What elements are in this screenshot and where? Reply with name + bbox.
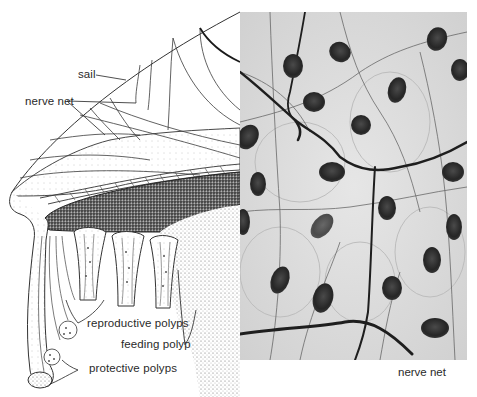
nerve-net-photomicrograph <box>240 12 467 360</box>
figure: sail nerve net reproductive polyps feedi… <box>0 0 477 397</box>
label-nerve-net-drawing: nerve net <box>25 96 74 108</box>
label-feeding-polyp: feeding polyp <box>121 339 191 351</box>
label-reproductive-polyps: reproductive polyps <box>87 318 189 330</box>
label-sail: sail <box>78 69 96 81</box>
label-protective-polyps: protective polyps <box>89 363 177 375</box>
photo-caption: nerve net <box>398 367 446 379</box>
